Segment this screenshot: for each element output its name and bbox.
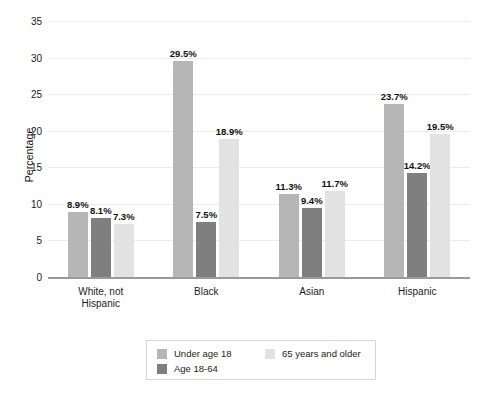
bar-value-label: 29.5% bbox=[170, 48, 197, 59]
legend-label: 65 years and older bbox=[282, 348, 361, 359]
y-axis-tick-label: 0 bbox=[36, 272, 42, 283]
gridline bbox=[48, 21, 470, 22]
bar-value-label: 7.5% bbox=[195, 209, 217, 220]
legend: Under age 18Age 18-6465 years and older bbox=[146, 340, 376, 380]
bar bbox=[91, 218, 111, 277]
bar-value-label: 14.2% bbox=[404, 160, 431, 171]
y-axis-tick-label: 20 bbox=[31, 125, 42, 136]
legend-swatch-icon bbox=[265, 349, 275, 359]
bar bbox=[407, 173, 427, 277]
y-axis-tick-label: 25 bbox=[31, 89, 42, 100]
gridline bbox=[48, 58, 470, 59]
plot-area: 8.9%8.1%7.3%29.5%7.5%18.9%11.3%9.4%11.7%… bbox=[48, 21, 470, 277]
legend-entry: Under age 18 bbox=[157, 348, 232, 359]
bar bbox=[196, 222, 216, 277]
bar-value-label: 23.7% bbox=[381, 91, 408, 102]
bar-value-label: 11.3% bbox=[276, 181, 302, 192]
legend-swatch-icon bbox=[157, 349, 167, 359]
bar-value-label: 19.5% bbox=[427, 121, 454, 132]
bar bbox=[430, 134, 450, 277]
bar bbox=[302, 208, 322, 277]
x-axis-category-label: Black bbox=[194, 286, 218, 298]
legend-label: Under age 18 bbox=[174, 348, 232, 359]
y-axis-tick-label: 35 bbox=[31, 16, 42, 27]
bar bbox=[173, 61, 193, 277]
legend-swatch-icon bbox=[157, 364, 167, 374]
bar-value-label: 7.3% bbox=[113, 211, 135, 222]
bar bbox=[219, 139, 239, 277]
y-axis-tick-label: 30 bbox=[31, 52, 42, 63]
gridline bbox=[48, 131, 470, 132]
legend-entry: 65 years and older bbox=[265, 348, 361, 359]
bar bbox=[279, 194, 299, 277]
legend-label: Age 18-64 bbox=[174, 363, 218, 374]
legend-entry: Age 18-64 bbox=[157, 363, 218, 374]
bar bbox=[384, 104, 404, 277]
bar bbox=[325, 191, 345, 277]
bar-value-label: 8.1% bbox=[90, 205, 112, 216]
bar-value-label: 18.9% bbox=[216, 126, 243, 137]
bar-value-label: 11.7% bbox=[322, 178, 348, 189]
x-axis-category-label: White, not Hispanic bbox=[78, 286, 123, 310]
bar-value-label: 9.4% bbox=[301, 195, 323, 206]
bar-value-label: 8.9% bbox=[67, 199, 89, 210]
y-axis-tick-label: 5 bbox=[36, 235, 42, 246]
x-axis-category-label: Hispanic bbox=[398, 286, 436, 298]
x-axis-category-label: Asian bbox=[299, 286, 324, 298]
y-axis-tick-label: 10 bbox=[31, 198, 42, 209]
y-axis-tick-label: 15 bbox=[31, 162, 42, 173]
bar-chart: Percentage 35302520151050 8.9%8.1%7.3%29… bbox=[0, 0, 491, 397]
y-axis-tick-labels: 35302520151050 bbox=[0, 0, 42, 397]
bar bbox=[68, 212, 88, 277]
bar bbox=[114, 224, 134, 277]
x-axis-line bbox=[48, 277, 470, 279]
